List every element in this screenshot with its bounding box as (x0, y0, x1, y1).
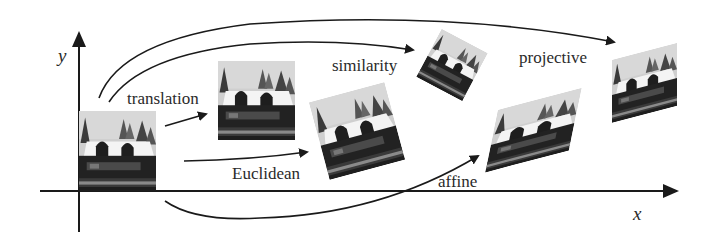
projective-label: projective (519, 48, 587, 67)
similarity-label: similarity (332, 56, 398, 75)
euclidean-label: Euclidean (232, 164, 300, 183)
affine-label: affine (438, 172, 477, 191)
original-image (79, 111, 156, 191)
affine-arrow (165, 156, 478, 219)
y-axis-label: y (56, 45, 67, 66)
transformations-diagram: y x translation Euclidean similarity (0, 0, 713, 239)
translation-image (218, 61, 295, 140)
euclidean-arrow (184, 152, 307, 161)
similarity-image (416, 29, 487, 101)
translation-label: translation (127, 89, 199, 108)
x-axis-label: x (632, 203, 642, 224)
affine-image (485, 88, 581, 172)
translation-arrow (165, 114, 206, 126)
euclidean-image (309, 82, 405, 179)
projective-image (612, 43, 677, 123)
